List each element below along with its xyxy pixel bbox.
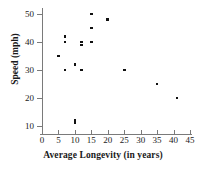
x-tick-label: 30 (132, 136, 150, 145)
data-point (64, 35, 67, 38)
x-tick-label: 0 (33, 136, 51, 145)
x-tick-label: 40 (165, 136, 183, 145)
data-point (57, 55, 60, 58)
data-point (90, 41, 93, 44)
data-point (123, 69, 126, 72)
data-point (106, 18, 109, 21)
data-point (74, 63, 77, 66)
x-tick-label: 10 (66, 136, 84, 145)
x-tick-label: 45 (181, 136, 199, 145)
x-tick-label: 15 (82, 136, 100, 145)
data-point (64, 41, 67, 44)
data-point (176, 97, 179, 100)
data-point (80, 44, 83, 47)
x-tick-label: 20 (99, 136, 117, 145)
data-point (64, 69, 67, 72)
data-point (90, 27, 93, 30)
x-tick-label: 5 (49, 136, 67, 145)
x-tick-label: 25 (115, 136, 133, 145)
y-axis-title: Speed (mph) (10, 4, 20, 114)
x-axis-title: Average Longevity (in years) (0, 150, 206, 160)
x-tick-label: 35 (148, 136, 166, 145)
data-point (80, 69, 83, 72)
data-point (90, 13, 93, 16)
data-point (156, 83, 159, 86)
y-tick-label: 10 (12, 122, 34, 131)
scatter-plot-figure: 1020304050 051015202530354045 Speed (mph… (0, 0, 206, 173)
data-point (74, 122, 77, 125)
